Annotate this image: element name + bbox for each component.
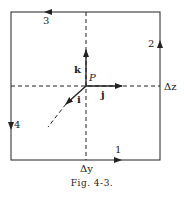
figure-caption: Fig. 4-3. — [71, 178, 113, 188]
i-vector-arrow — [66, 86, 86, 104]
figure-diagram: 3 2 4 1 k P j i Δz Δy Fig. 4-3. — [0, 0, 184, 197]
segment-label-3: 3 — [43, 15, 49, 26]
delta-y-label: Δy — [80, 163, 93, 174]
segment-label-1: 1 — [115, 144, 121, 155]
i-vector-label: i — [77, 94, 81, 105]
j-vector-label: j — [100, 89, 105, 100]
delta-z-label: Δz — [164, 81, 177, 92]
arrow-segment-2-icon — [157, 40, 163, 48]
segment-label-2: 2 — [148, 38, 154, 49]
k-vector-label: k — [74, 64, 82, 75]
point-p-label: P — [88, 72, 96, 83]
segment-label-4: 4 — [14, 119, 20, 130]
arrow-segment-1-icon — [114, 157, 122, 163]
i-axis-dashed-extension — [48, 104, 66, 127]
